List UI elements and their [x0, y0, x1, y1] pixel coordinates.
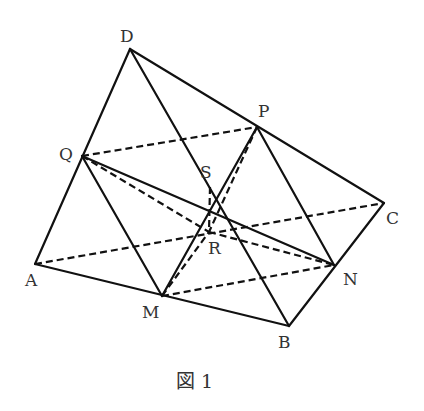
vertex-label-B: B	[278, 332, 291, 352]
vertex-label-P: P	[258, 101, 269, 121]
edge-PN	[257, 127, 334, 265]
edge-PR	[209, 127, 257, 232]
edge-SR	[209, 187, 210, 232]
figure-caption: 図 1	[176, 370, 213, 392]
edge-QP	[82, 127, 257, 156]
vertex-label-D: D	[120, 26, 134, 46]
vertex-label-A: A	[24, 270, 38, 290]
edge-MN	[162, 265, 334, 296]
vertex-label-N: N	[343, 269, 358, 289]
tetrahedron-diagram: DPCQSRAMNB 図 1	[0, 0, 424, 411]
vertex-label-C: C	[386, 208, 399, 228]
vertex-label-R: R	[208, 238, 222, 258]
edge-QR	[82, 156, 209, 232]
edge-QM	[82, 156, 162, 296]
vertex-label-M: M	[142, 302, 159, 322]
edge-BC	[289, 203, 384, 326]
vertex-label-Q: Q	[59, 144, 73, 164]
vertex-label-S: S	[200, 162, 212, 182]
